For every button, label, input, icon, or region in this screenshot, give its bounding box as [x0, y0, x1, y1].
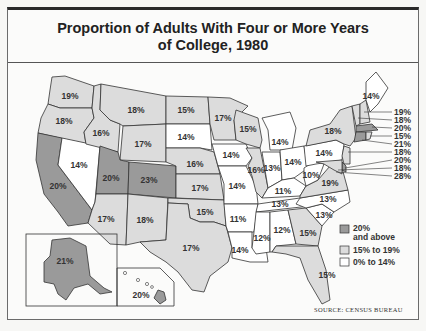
legend-mid-label: 15% to 19% [353, 245, 400, 255]
label-ca: 20% [49, 181, 66, 191]
label-hi: 20% [132, 290, 149, 300]
label-nm: 18% [136, 215, 153, 225]
legend-high-line2: and above [353, 232, 395, 242]
label-fl: 15% [318, 270, 335, 280]
label-ga: 15% [299, 228, 316, 238]
legend-swatch-high [340, 225, 349, 233]
legend-swatch-low [340, 258, 349, 266]
label-ne: 16% [186, 159, 203, 169]
legend-swatch-mid [340, 246, 349, 254]
label-il: 16% [247, 165, 264, 175]
label-wv: 10% [302, 170, 319, 180]
legend-low-label: 0% to 14% [353, 257, 395, 267]
label-la: 14% [231, 245, 248, 255]
label-ak: 21% [56, 256, 73, 266]
label-oh: 14% [284, 157, 301, 167]
label-in: 13% [263, 163, 280, 173]
state-ak[interactable] [44, 238, 112, 300]
label-sd: 14% [177, 132, 194, 142]
label-ar: 11% [230, 214, 247, 224]
label-pa: 14% [315, 148, 332, 158]
label-az: 17% [97, 214, 114, 224]
label-sc: 13% [315, 210, 332, 220]
label-tn: 13% [271, 199, 288, 209]
label-co: 23% [140, 175, 157, 185]
label-nd: 15% [177, 105, 194, 115]
callout-labels: 19% 18% 20% 15% 21% 18% 20% 18% 28% [394, 107, 411, 181]
label-nc: 13% [319, 194, 336, 204]
label-va: 19% [321, 178, 338, 188]
label-nv: 14% [70, 160, 87, 170]
label-mo: 14% [228, 181, 245, 191]
label-wi: 15% [239, 124, 256, 134]
state-nj[interactable] [342, 146, 350, 164]
label-mt: 18% [127, 105, 144, 115]
state-ma[interactable] [356, 124, 378, 132]
state-hi[interactable] [154, 290, 166, 304]
label-or: 18% [55, 116, 72, 126]
label-ks: 17% [191, 183, 208, 193]
label-ut: 20% [102, 173, 119, 183]
label-wa: 19% [61, 91, 78, 101]
label-ny: 18% [324, 126, 341, 136]
label-ia: 14% [222, 150, 239, 160]
us-map: 19% 18% 20% 14% 16% 18% 17% 20% 23% 17% … [0, 0, 426, 331]
label-mn: 17% [214, 113, 231, 123]
label-mi: 14% [271, 137, 288, 147]
callout-dc: 28% [394, 171, 411, 181]
label-al: 12% [273, 225, 290, 235]
label-wy: 17% [134, 139, 151, 149]
label-ms: 12% [253, 233, 270, 243]
label-ok: 15% [196, 207, 213, 217]
legend: 20% and above 15% to 19% 0% to 14% [340, 223, 400, 267]
label-tx: 17% [182, 243, 199, 253]
label-ky: 11% [275, 186, 292, 196]
label-me: 14% [362, 91, 379, 101]
label-id: 16% [92, 128, 109, 138]
source-note: SOURCE: CENSUS BUREAU [314, 306, 403, 313]
